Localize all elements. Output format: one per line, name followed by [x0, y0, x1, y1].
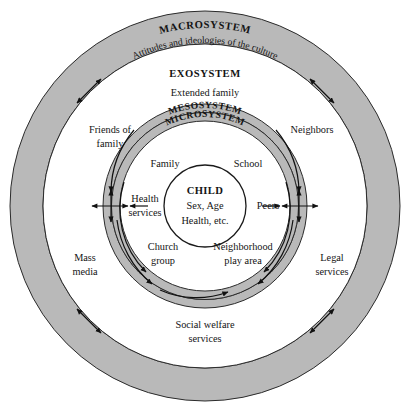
legal-services-line1: Legal [320, 252, 344, 263]
ecological-systems-diagram: MACROSYSTEM Attitudes and ideologies of … [0, 0, 411, 418]
social-welfare-line2: services [188, 333, 221, 344]
mass-media-line2: media [72, 266, 98, 277]
friends-of-family-line2: family [97, 138, 125, 149]
microsystem-item-family: Family [150, 158, 180, 169]
friends-of-family-line1: Friends of [89, 124, 132, 135]
label-exosystem-subtitle: Extended family [171, 87, 240, 98]
legal-services-line2: services [315, 266, 348, 277]
neighborhood-line1: Neighborhood [213, 241, 273, 252]
child-title: CHILD [187, 185, 224, 196]
health-services-line1: Health [131, 193, 159, 204]
child-core-label: CHILD Sex, Age Health, etc. [181, 185, 228, 226]
label-exosystem: EXOSYSTEM [169, 68, 240, 79]
social-welfare-line1: Social welfare [175, 319, 235, 330]
health-services-line2: services [128, 207, 161, 218]
exosystem-item-neighbors: Neighbors [291, 124, 334, 135]
church-group-line1: Church [148, 241, 179, 252]
microsystem-item-school: School [234, 158, 263, 169]
church-group-line2: group [151, 255, 175, 266]
child-line2: Health, etc. [181, 215, 228, 226]
child-line1: Sex, Age [186, 200, 224, 211]
mass-media-line1: Mass [74, 252, 96, 263]
neighborhood-line2: play area [224, 255, 262, 266]
